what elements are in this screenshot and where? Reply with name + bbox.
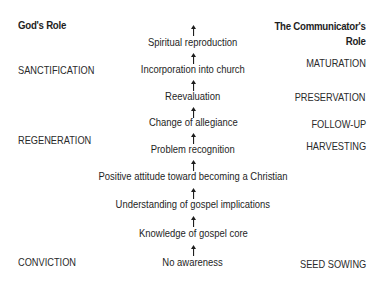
communicators-role-header-line1: The Communicator's [275,19,366,34]
arrow-up-icon [191,77,195,88]
process-step: No awareness [0,256,384,268]
process-step: Problem recognition [0,143,384,155]
process-step-label: Incorporation into church [141,63,245,75]
process-step-label: Spiritual reproduction [148,36,237,48]
process-step-label: Understanding of gospel implications [116,198,270,210]
arrow-up-icon [191,157,195,168]
arrow-up-icon [191,130,195,141]
gods-role-header: God's Role [18,19,66,31]
arrow-up-icon [191,242,195,253]
arrow-up-icon [191,213,195,224]
process-step: Incorporation into church [0,63,384,75]
process-step-label: Knowledge of gospel core [139,227,248,239]
process-step: Reevaluation [0,90,384,102]
process-step: Knowledge of gospel core [0,227,384,239]
arrow-up-icon [191,185,195,196]
process-step-label: No awareness [163,256,223,268]
process-step: Positive attitude toward becoming a Chri… [0,170,384,182]
process-step: Understanding of gospel implications [0,198,384,210]
process-step-label: Positive attitude toward becoming a Chri… [98,170,287,182]
arrow-up-icon [191,50,195,61]
process-step-label: Problem recognition [151,143,235,155]
process-step-label: Reevaluation [165,90,220,102]
process-step: Spiritual reproduction [0,36,384,48]
arrow-up-icon [191,104,195,115]
arrow-up-icon [191,22,195,33]
